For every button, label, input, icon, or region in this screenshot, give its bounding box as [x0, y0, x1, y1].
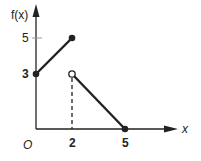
x-axis-arrow-icon [164, 126, 178, 133]
y-axis-label: f(x) [11, 9, 28, 21]
x-tick-label-5: 5 [122, 137, 129, 149]
x-axis-label: x [182, 123, 188, 135]
y-tick-label-3: 3 [22, 68, 29, 80]
closed-point-5-0 [122, 126, 129, 133]
piecewise-graph [0, 0, 201, 161]
origin-label: O [23, 139, 32, 151]
closed-point-0-3 [33, 71, 40, 78]
closed-point-2-5 [69, 35, 76, 42]
open-point-2-3 [69, 71, 75, 77]
y-axis-arrow-icon [33, 4, 40, 17]
y-tick-label-5: 5 [22, 32, 29, 44]
segment-2 [74, 76, 125, 129]
segment-1 [36, 38, 72, 74]
x-tick-label-2: 2 [69, 137, 76, 149]
